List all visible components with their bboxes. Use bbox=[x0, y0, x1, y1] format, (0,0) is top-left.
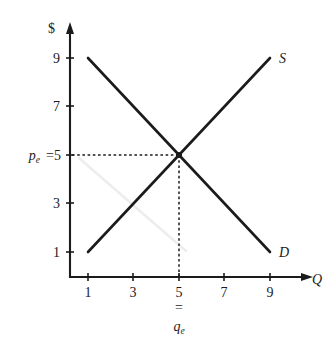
equilibrium-quantity-equals: = bbox=[175, 300, 183, 315]
x-tick-label-9: 9 bbox=[267, 285, 274, 300]
y-axis-title: $ bbox=[48, 21, 55, 36]
x-tick-label-7: 7 bbox=[221, 285, 228, 300]
equilibrium-price-value: =5 bbox=[46, 148, 61, 163]
y-tick-label-7: 7 bbox=[53, 99, 60, 114]
supply-demand-chart: $ Q 9 7 3 1 pe =5 1 3 5 7 9 = qe S D bbox=[0, 0, 333, 340]
supply-curve-label: S bbox=[279, 51, 286, 66]
demand-curve-label: D bbox=[278, 245, 289, 260]
equilibrium-price-symbol: p bbox=[28, 148, 36, 163]
x-tick-label-5: 5 bbox=[176, 285, 183, 300]
y-tick-label-1: 1 bbox=[53, 245, 60, 260]
equilibrium-price-label: pe =5 bbox=[28, 148, 61, 165]
svg-text:pe: pe bbox=[28, 148, 40, 165]
equilibrium-quantity-symbol: q bbox=[173, 319, 180, 334]
chart-canvas: $ Q 9 7 3 1 pe =5 1 3 5 7 9 = qe S D bbox=[0, 0, 333, 340]
y-tick-label-9: 9 bbox=[53, 51, 60, 66]
equilibrium-point-marker bbox=[176, 152, 182, 158]
x-axis-title: Q bbox=[312, 272, 322, 287]
x-tick-label-3: 3 bbox=[130, 285, 137, 300]
y-tick-label-3: 3 bbox=[53, 196, 60, 211]
x-tick-label-1: 1 bbox=[85, 285, 92, 300]
y-axis-arrowhead bbox=[66, 22, 74, 34]
equilibrium-price-subscript: e bbox=[36, 155, 40, 165]
equilibrium-quantity-label: qe bbox=[173, 319, 184, 336]
equilibrium-quantity-subscript: e bbox=[180, 326, 184, 336]
